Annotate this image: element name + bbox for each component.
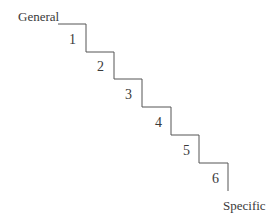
staircase-line bbox=[0, 0, 279, 222]
step-6: 6 bbox=[212, 172, 219, 186]
step-3: 3 bbox=[125, 88, 132, 102]
step-2: 2 bbox=[97, 60, 104, 74]
step-4: 4 bbox=[155, 116, 162, 130]
step-1: 1 bbox=[69, 33, 76, 47]
label-general: General bbox=[18, 10, 59, 23]
step-5: 5 bbox=[183, 144, 190, 158]
label-specific: Specific bbox=[223, 199, 266, 212]
